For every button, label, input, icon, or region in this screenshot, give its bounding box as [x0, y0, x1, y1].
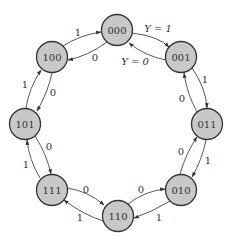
state-label: 011: [197, 119, 216, 130]
edge-110-to-010: [128, 189, 165, 204]
state-label: 010: [171, 185, 190, 196]
edge-101-to-100: [26, 70, 41, 108]
edge-label-111-110: 0: [83, 184, 89, 195]
edge-label-000-001: Y = 1: [144, 23, 172, 34]
state-diagram: Y = 1 Y = 0 1 0 1 0 1 0 1 0 1 0 1 0 1 0 …: [0, 0, 241, 245]
edge-label-000-100: 0: [92, 52, 98, 63]
state-node-000: 000: [102, 15, 133, 46]
edge-label-100-000: 1: [75, 27, 81, 38]
edge-label-101-100: 1: [22, 79, 28, 90]
state-node-100: 100: [37, 42, 68, 73]
edge-011-to-001: [184, 73, 197, 112]
edge-label-110-111: 1: [77, 212, 83, 223]
edge-label-010-011: 0: [178, 146, 184, 157]
edge-label-111-101: 1: [23, 159, 29, 170]
edge-label-101-111: 0: [46, 141, 52, 152]
nodes: 000 001 011 010 110 111 101 100: [10, 15, 223, 232]
edge-label-001-011: 1: [202, 74, 208, 85]
edge-label-001-000: Y = 0: [121, 56, 149, 67]
edge-label-011-001: 0: [179, 93, 185, 104]
edge-label-010-110: 1: [156, 212, 162, 223]
state-label: 000: [107, 25, 126, 36]
state-label: 101: [15, 119, 34, 130]
state-node-110: 110: [103, 201, 134, 232]
state-node-001: 001: [166, 42, 197, 73]
state-node-011: 011: [192, 109, 223, 140]
state-node-111: 111: [37, 175, 68, 206]
state-node-010: 010: [166, 175, 197, 206]
edge-label-100-101: 0: [50, 87, 56, 98]
edge-010-to-110: [134, 201, 170, 218]
state-label: 100: [42, 52, 61, 63]
state-node-101: 101: [10, 109, 41, 140]
edge-100-to-000: [63, 32, 101, 46]
edge-label-011-010: 1: [205, 155, 211, 166]
state-label: 111: [42, 185, 61, 196]
edge-000-to-100: [68, 42, 107, 60]
edge-110-to-111: [64, 200, 103, 221]
edge-000-to-001: [132, 33, 169, 47]
state-label: 001: [171, 52, 190, 63]
state-label: 110: [108, 211, 127, 222]
edge-label-110-010: 0: [138, 184, 144, 195]
